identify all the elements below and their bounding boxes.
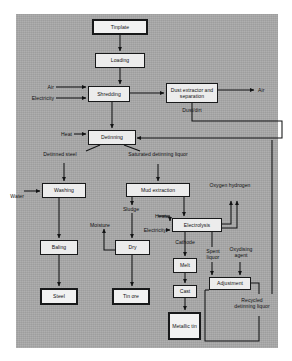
label-dust-dirt: Dust/dirt bbox=[174, 107, 210, 113]
process-flow-diagram: Tinplate Loading Shredding Dust extracto… bbox=[0, 0, 292, 361]
label-electricity-input: Electricity bbox=[22, 95, 54, 101]
label-air-input: Air bbox=[30, 84, 54, 90]
label-recycled-detinning-liquor: Recycled detinning liquor bbox=[234, 297, 270, 309]
label-electricity-electrolysis: Electricity bbox=[134, 227, 166, 233]
label-cathode: Cathode bbox=[168, 239, 202, 245]
label-sludge: Sludge bbox=[116, 206, 146, 212]
label-heat-electrolysis: Heat bbox=[144, 213, 166, 219]
label-oxydising-agent: Oxydising agent bbox=[227, 246, 255, 258]
label-water-input: Water bbox=[0, 193, 24, 199]
label-layer: Air Electricity Air Dust/dirt Heat Detin… bbox=[0, 0, 292, 361]
label-detinned-steel: Detinned steel bbox=[40, 151, 80, 157]
label-oxygen-hydrogen: Oxygen hydrogen bbox=[208, 182, 252, 188]
label-heat-detinning: Heat bbox=[50, 131, 72, 137]
label-air-output: Air bbox=[258, 87, 278, 93]
label-spent-liquor: Spent liquor bbox=[201, 248, 225, 260]
label-moisture: Moisture bbox=[84, 222, 116, 228]
label-saturated-detinning-liquor: Saturated detinning liquor bbox=[122, 151, 194, 157]
